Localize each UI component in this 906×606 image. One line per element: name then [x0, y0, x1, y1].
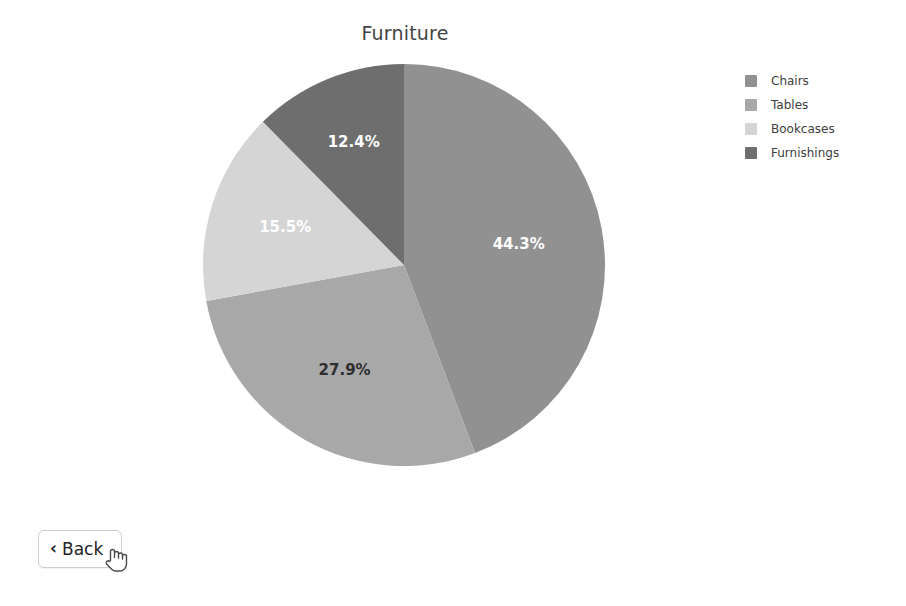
pie-slice-label-tables: 27.9% — [319, 361, 371, 379]
legend-swatch-icon — [745, 75, 757, 87]
legend-swatch-icon — [745, 123, 757, 135]
legend-item-furnishings[interactable]: Furnishings — [745, 141, 895, 165]
pie-slice-group — [203, 64, 605, 466]
pie-slice-label-chairs: 44.3% — [493, 235, 545, 253]
pie-chart-svg: 44.3%27.9%15.5%12.4% — [203, 64, 605, 466]
chevron-left-icon: ‹ — [50, 540, 57, 557]
legend-item-label: Furnishings — [771, 146, 839, 160]
legend-item-label: Bookcases — [771, 122, 835, 136]
pie-slice-label-furnishings: 12.4% — [328, 133, 380, 151]
legend-item-label: Chairs — [771, 74, 809, 88]
pie-chart: 44.3%27.9%15.5%12.4% — [203, 64, 605, 466]
page-title: Furniture — [0, 22, 810, 44]
back-button[interactable]: ‹ Back — [38, 530, 122, 568]
back-button-label: Back — [62, 541, 103, 558]
legend-item-label: Tables — [771, 98, 808, 112]
legend-item-bookcases[interactable]: Bookcases — [745, 117, 895, 141]
legend-swatch-icon — [745, 147, 757, 159]
legend-item-tables[interactable]: Tables — [745, 93, 895, 117]
chart-legend: ChairsTablesBookcasesFurnishings — [745, 69, 895, 165]
legend-item-chairs[interactable]: Chairs — [745, 69, 895, 93]
legend-swatch-icon — [745, 99, 757, 111]
pie-slice-label-bookcases: 15.5% — [259, 218, 311, 236]
